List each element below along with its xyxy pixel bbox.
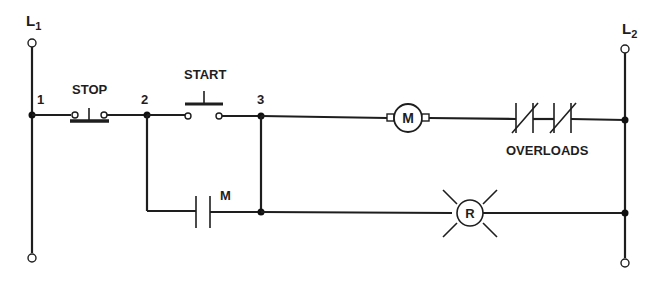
- motor-label: M: [402, 110, 414, 126]
- wire-number-3: 3: [257, 92, 264, 107]
- motor-terminal-left: [387, 114, 394, 121]
- lamp-ray: [483, 223, 497, 237]
- start-terminal-left: [185, 113, 191, 119]
- wire-segment: [261, 212, 452, 213]
- rail-l2-top-terminal: [621, 45, 629, 53]
- lamp-label: R: [465, 206, 475, 221]
- rung-2: M R: [147, 115, 629, 237]
- wire-segment: [261, 116, 387, 118]
- wire-segment: [571, 119, 625, 120]
- rail-l2-bottom-terminal: [621, 259, 629, 267]
- overload-contacts: OVERLOADS: [506, 103, 589, 158]
- motor-terminal-right: [422, 114, 429, 121]
- m-contact-label: M: [220, 188, 231, 203]
- stop-label: STOP: [72, 82, 107, 97]
- lamp-ray: [443, 190, 457, 204]
- wire-segment: [429, 118, 516, 119]
- lamp-ray: [483, 190, 497, 204]
- wire-number-2: 2: [141, 92, 148, 107]
- wire-number-1: 1: [37, 92, 44, 107]
- stop-terminal-right: [101, 112, 107, 118]
- rail-l2: L2: [621, 20, 637, 267]
- motor-symbol: M: [387, 104, 429, 132]
- m-seal-contact: M: [196, 188, 231, 228]
- start-terminal-right: [216, 113, 222, 119]
- rail-l2-label: L2: [622, 20, 637, 40]
- junction-l2-rung1: [622, 117, 629, 124]
- rail-l1: L1: [26, 12, 41, 262]
- overloads-label: OVERLOADS: [506, 143, 589, 158]
- rail-l1-label: L1: [26, 12, 41, 32]
- ladder-diagram: L1 L2 1 STOP 2 START: [0, 0, 657, 281]
- lamp-ray: [443, 223, 457, 237]
- start-pushbutton: START: [184, 67, 226, 119]
- rail-l1-bottom-terminal: [28, 254, 36, 262]
- start-label: START: [184, 67, 226, 82]
- stop-pushbutton: STOP: [70, 82, 109, 121]
- stop-terminal-left: [72, 112, 78, 118]
- rail-l1-top-terminal: [28, 39, 36, 47]
- rung-1: 1 STOP 2 START 3: [29, 67, 629, 158]
- junction-l2-rung2: [622, 210, 629, 217]
